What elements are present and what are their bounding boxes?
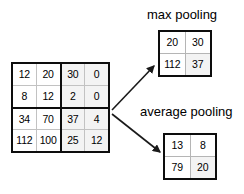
matrix-cell-r0c0: 12 (13, 64, 37, 85)
output-row: 79 20 (165, 157, 215, 178)
matrix-cell-r0c2: 30 (62, 64, 86, 85)
matrix-quadrant-row-bottom: 34 70 112 100 37 4 25 12 (13, 109, 108, 152)
matrix-cell-r1c0: 8 (13, 86, 37, 107)
matrix-row: 2 0 (62, 86, 109, 107)
matrix-cell-r3c1: 100 (37, 130, 60, 151)
matrix-cell-r2c1: 70 (37, 109, 60, 130)
matrix-cell-r1c1: 12 (37, 86, 60, 107)
pooling-diagram: 12 20 8 12 30 0 2 0 (0, 0, 244, 194)
matrix-cell-r0c3: 0 (85, 64, 108, 85)
matrix-row: 112 100 (13, 130, 60, 151)
matrix-cell-r3c0: 112 (13, 130, 37, 151)
matrix-row: 34 70 (13, 109, 60, 131)
matrix-cell-r3c2: 25 (62, 130, 86, 151)
matrix-row: 25 12 (62, 130, 109, 151)
matrix-cell-r1c2: 2 (62, 86, 86, 107)
matrix-quadrant-bottom-left: 34 70 112 100 (13, 109, 62, 152)
avg-cell-r1c1: 20 (191, 157, 216, 178)
matrix-quadrant-top-right: 30 0 2 0 (62, 64, 109, 107)
max-cell-r1c1: 37 (186, 54, 211, 75)
matrix-cell-r2c3: 4 (85, 109, 108, 130)
avg-cell-r0c1: 8 (191, 135, 216, 156)
matrix-cell-r1c3: 0 (85, 86, 108, 107)
matrix-cell-r2c2: 37 (62, 109, 86, 130)
average-pooling-label: average pooling (140, 105, 233, 118)
matrix-cell-r3c3: 12 (85, 130, 108, 151)
arrow-to-average-pooling (112, 114, 160, 152)
matrix-row: 30 0 (62, 64, 109, 86)
output-row: 20 30 (160, 32, 210, 54)
matrix-quadrant-top-left: 12 20 8 12 (13, 64, 62, 107)
max-pooling-output: 20 30 112 37 (158, 30, 212, 77)
matrix-quadrant-row-top: 12 20 8 12 30 0 2 0 (13, 64, 108, 109)
average-pooling-output: 13 8 79 20 (163, 133, 217, 180)
max-cell-r1c0: 112 (160, 54, 186, 75)
matrix-cell-r0c1: 20 (37, 64, 60, 85)
matrix-row: 8 12 (13, 86, 60, 107)
matrix-row: 37 4 (62, 109, 109, 131)
max-pooling-label: max pooling (147, 8, 217, 21)
matrix-cell-r2c0: 34 (13, 109, 37, 130)
output-row: 13 8 (165, 135, 215, 157)
avg-cell-r0c0: 13 (165, 135, 191, 156)
matrix-row: 12 20 (13, 64, 60, 86)
avg-cell-r1c0: 79 (165, 157, 191, 178)
output-row: 112 37 (160, 54, 210, 75)
max-cell-r0c1: 30 (186, 32, 211, 53)
matrix-quadrant-bottom-right: 37 4 25 12 (62, 109, 109, 152)
max-cell-r0c0: 20 (160, 32, 186, 53)
input-feature-map: 12 20 8 12 30 0 2 0 (11, 62, 110, 153)
